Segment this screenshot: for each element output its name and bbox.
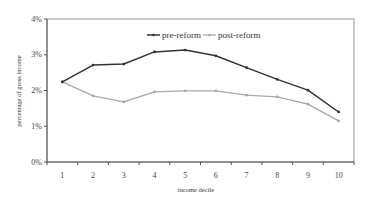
y-axis-title: percentage of gross income [15, 55, 22, 126]
data-point [184, 49, 187, 52]
data-point [122, 63, 125, 66]
data-point [153, 50, 156, 53]
x-tick-label: 7 [245, 171, 249, 180]
data-point [276, 78, 279, 81]
x-tick-label: 9 [306, 171, 310, 180]
x-tick-label: 6 [214, 171, 218, 180]
legend: pre-reform post-reform [147, 30, 261, 40]
y-tick-label: 3% [31, 50, 42, 59]
data-point [184, 89, 187, 92]
x-tick-label: 5 [183, 171, 187, 180]
y-axis: 0%1%2%3%4% [31, 15, 47, 167]
legend-label: post-reform [218, 30, 261, 40]
data-point [307, 103, 310, 106]
x-axis-title: income decile [178, 186, 214, 193]
series-pre-reform [61, 49, 340, 114]
data-point [337, 111, 340, 114]
y-tick-label: 2% [31, 86, 42, 95]
data-point [337, 119, 340, 122]
y-tick-label: 0% [31, 158, 42, 167]
x-tick-label: 1 [60, 171, 64, 180]
data-point [92, 94, 95, 97]
x-tick-label: 2 [91, 171, 95, 180]
series-layer [61, 49, 340, 123]
data-point [276, 96, 279, 99]
legend-item-post-reform: post-reform [203, 30, 261, 40]
y-tick-label: 1% [31, 122, 42, 131]
data-point [153, 91, 156, 94]
x-tick-label: 4 [152, 171, 156, 180]
data-point [122, 101, 125, 104]
line-chart: 0%1%2%3%4% 12345678910 percentage of gro… [0, 0, 372, 203]
x-tick-label: 3 [122, 171, 126, 180]
x-tick-label: 10 [335, 171, 343, 180]
x-axis: 12345678910 [47, 162, 354, 180]
data-point [307, 89, 310, 92]
legend-item-pre-reform: pre-reform [147, 30, 201, 40]
legend-label: pre-reform [162, 30, 201, 40]
data-point [214, 89, 217, 92]
y-tick-label: 4% [31, 15, 42, 24]
data-point [92, 64, 95, 67]
data-point [61, 81, 64, 84]
data-point [214, 54, 217, 57]
x-tick-label: 8 [275, 171, 279, 180]
data-point [245, 66, 248, 69]
data-point [245, 94, 248, 97]
